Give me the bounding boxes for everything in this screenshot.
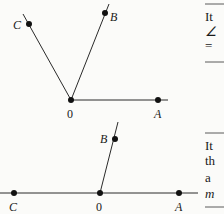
figure-bottom [0,122,198,193]
side-line: ∠ [205,24,217,39]
point-O-top [68,97,74,103]
side-text-top: It ∠ = [205,4,224,62]
side-line: It [205,9,213,24]
label-B-top: B [110,10,118,24]
label-O-top: 0 [67,107,73,121]
label-A-bottom: A [174,200,183,214]
label-A-top: A [153,107,162,121]
point-O-bottom [97,190,103,196]
side-line: It [205,138,213,153]
point-B-top [102,10,108,16]
side-line: m [205,186,214,201]
diagram: C B 0 A B C 0 A It ∠ = It th a m [0,0,224,214]
side-text-bottom: It th a m [205,133,224,207]
label-B-bottom: B [100,132,108,146]
point-B-bottom [112,136,118,142]
point-A-top [155,97,161,103]
ray-OB-top [71,4,109,100]
point-C-top [26,21,32,27]
side-line: = [205,38,212,53]
figure-top [23,4,168,100]
point-A-bottom [176,190,182,196]
label-C-bottom: C [9,200,18,214]
side-line: a [205,170,211,185]
ray-OC-top [23,14,71,100]
point-C-bottom [11,190,17,196]
side-line: th [205,153,216,168]
label-O-bottom: 0 [96,200,102,214]
label-C-top: C [13,18,22,32]
